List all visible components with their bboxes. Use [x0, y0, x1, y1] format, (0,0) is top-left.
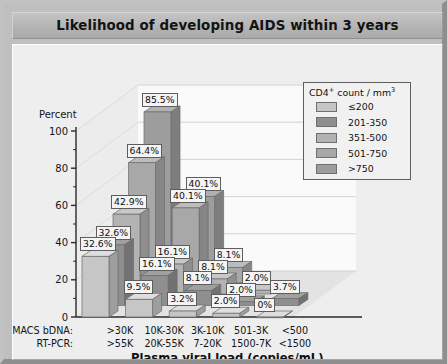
svg-text:20: 20 [55, 274, 68, 285]
legend-swatch [316, 148, 337, 158]
svg-text:40: 40 [55, 237, 68, 248]
svg-text:60: 60 [55, 200, 68, 211]
legend-item[interactable]: ≤200 [316, 100, 374, 113]
x-tick-rtpcr: >55K [107, 338, 134, 349]
page-title: Likelihood of developing AIDS within 3 y… [56, 18, 398, 33]
bar-value-label: 3.7% [270, 280, 300, 294]
x-tick-rtpcr: 1500-7K [231, 338, 271, 349]
legend-item[interactable]: 501-750 [316, 147, 387, 160]
legend-item[interactable]: 201-350 [316, 116, 387, 129]
legend-swatch [316, 102, 337, 112]
rtpcr-row-label: RT-PCR: [37, 338, 74, 349]
x-tick-macs: 501-3K [234, 325, 268, 336]
legend-label: 501-750 [348, 148, 387, 159]
bar-value-label: 64.4% [127, 144, 163, 158]
macs-row-label: MACS bDNA: [12, 325, 73, 336]
y-axis-title: Percent [39, 109, 77, 120]
x-tick-macs: 10K-30K [144, 325, 183, 336]
bar-value-label: 0% [254, 298, 275, 312]
x-tick-macs: >30K [107, 325, 134, 336]
x-tick-rtpcr: <1500 [279, 338, 311, 349]
legend-label: 351-500 [348, 132, 387, 143]
bar-value-label: 8.1% [183, 271, 213, 285]
bar-value-label: 16.1% [139, 257, 175, 271]
bar-value-label: 32.6% [80, 237, 116, 251]
legend-item[interactable]: 351-500 [316, 131, 387, 144]
bar-value-label: 40.1% [170, 189, 206, 203]
svg-text:100: 100 [49, 126, 68, 137]
chart-canvas: 020406080100 Percent CD4+ count / mm3 ≤2… [13, 45, 442, 359]
bar-value-label: 85.5% [142, 93, 178, 107]
plot-card: 020406080100 Percent CD4+ count / mm3 ≤2… [12, 44, 443, 360]
x-tick-rtpcr: 7-20K [194, 338, 222, 349]
legend-swatch [316, 164, 337, 174]
svg-text:80: 80 [55, 163, 68, 174]
legend-swatch [316, 133, 337, 143]
legend-label: >750 [348, 163, 374, 174]
legend-label: 201-350 [348, 117, 387, 128]
bar-value-label: 9.5% [124, 280, 154, 294]
x-tick-macs: <500 [282, 325, 308, 336]
legend-swatch [316, 117, 337, 127]
bar-value-label: 42.9% [111, 195, 147, 209]
legend-label: ≤200 [348, 101, 374, 112]
legend: CD4+ count / mm3 ≤200201-350351-500501-7… [303, 82, 411, 180]
x-axis-title: Plasma viral load (copies/mL) [131, 351, 324, 360]
x-tick-rtpcr: 20K-55K [144, 338, 183, 349]
bar-value-label: 3.2% [167, 292, 197, 306]
chart-window: Likelihood of developing AIDS within 3 y… [0, 0, 447, 364]
legend-title: CD4+ count / mm3 [309, 86, 395, 98]
legend-item[interactable]: >750 [316, 162, 374, 175]
title-bar: Likelihood of developing AIDS within 3 y… [12, 12, 443, 39]
svg-text:0: 0 [62, 312, 68, 323]
x-tick-macs: 3K-10K [191, 325, 224, 336]
bar-value-label: 2.0% [211, 294, 241, 308]
